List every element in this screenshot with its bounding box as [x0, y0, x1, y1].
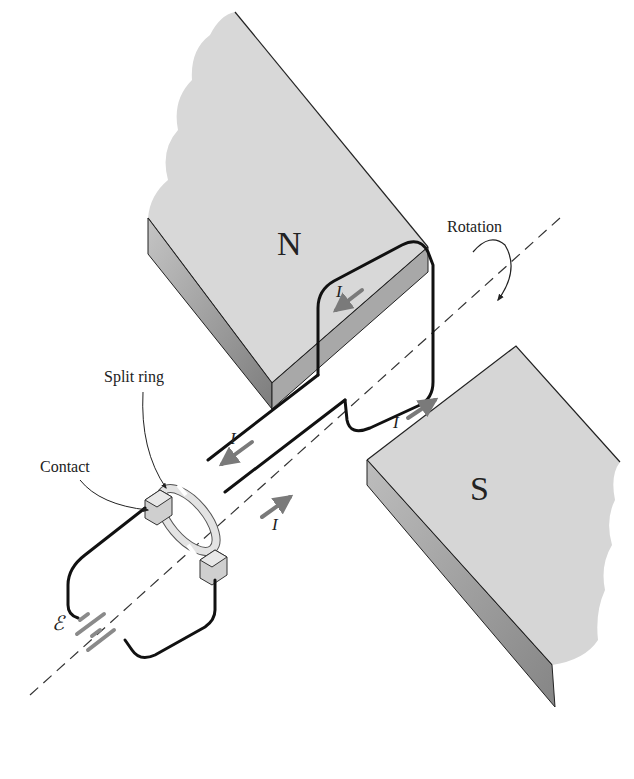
- contact-leader: [80, 480, 148, 510]
- contact-label: Contact: [40, 458, 90, 475]
- battery: [77, 614, 114, 650]
- emf-label: ℰ: [52, 612, 66, 634]
- south-magnet: S: [367, 346, 620, 707]
- south-pole-label: S: [470, 470, 489, 507]
- current-arrow-lower-lead: [262, 497, 290, 517]
- dc-motor-diagram: N S ℰ: [0, 0, 634, 779]
- split-ring-label: Split ring: [104, 368, 164, 386]
- split-ring-leader: [143, 392, 166, 488]
- current-label-lower-lead: I: [271, 515, 279, 534]
- rotation-label: Rotation: [447, 218, 502, 235]
- external-circuit: [68, 508, 215, 658]
- north-pole-label: N: [277, 225, 302, 262]
- north-magnet: N: [148, 12, 428, 409]
